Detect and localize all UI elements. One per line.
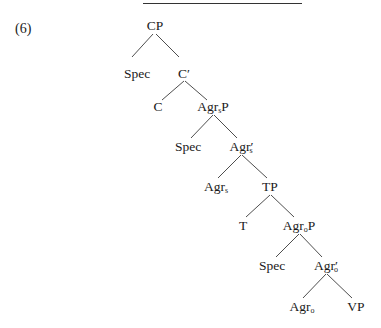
node-spec-agrs: Spec [175,139,201,155]
branch-agrsbar-tp [242,155,267,178]
node-agro-bar: Agr′o [314,258,338,274]
branch-agrop-spec [276,234,299,257]
branch-agrop-agrobar [300,234,322,257]
branch-agrobar-vp [327,274,352,298]
branch-tp-t [246,195,270,217]
branch-agrsbar-agrs [218,155,241,178]
branch-tp-agrop [271,195,294,217]
branch-cp-cbar [156,34,179,57]
node-tp: TP [262,179,278,195]
node-vp: VP [347,299,364,315]
syntax-tree-diagram: (6) CP Spec C′ C AgrsP Spec Agr′s Agrs T… [0,0,381,328]
branch-cp-spec [132,34,153,57]
branch-cbar-c [162,81,184,100]
node-cp: CP [147,18,164,34]
node-agro: Agro [290,299,315,315]
branch-agrsp-agrsbar [214,115,237,138]
tree-branches [0,0,381,328]
node-c-bar: C′ [178,66,190,82]
node-t: T [239,218,247,234]
node-spec-agro: Spec [259,258,285,274]
branch-agrsp-spec [191,115,213,138]
branch-cbar-agrsp [185,81,207,100]
node-c: C [153,99,162,115]
node-agrs-bar: Agr′s [229,139,252,155]
node-agrs: Agrs [204,179,228,195]
node-agrs-p: AgrsP [197,99,229,115]
node-spec-c: Spec [124,66,150,82]
node-agro-p: AgroP [283,218,316,234]
branch-agrobar-agro [303,274,326,298]
